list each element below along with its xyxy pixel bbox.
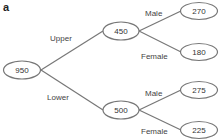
edge-root-lower [41,70,103,110]
node-lower-male: 275 [181,82,218,99]
node-lower: 500 [103,101,139,119]
node-lower-male-value: 275 [192,86,206,95]
node-upper-female: 180 [181,44,218,61]
node-root: 950 [4,61,41,79]
edge-upper-female [139,31,181,52]
node-lower-female-value: 225 [192,126,206,135]
edge-label-upper-female: Female [141,52,168,61]
edge-label-lower-female: Female [141,127,168,136]
node-root-value: 950 [15,66,29,75]
node-lower-female: 225 [181,122,218,139]
node-upper: 450 [103,22,139,40]
node-upper-male-value: 270 [192,7,206,16]
edge-label-lower: Lower [47,93,69,102]
node-upper-value: 450 [114,27,128,36]
panel-label: a [3,1,10,13]
tree-diagram: a Upper Lower Male Female Male Female 95… [0,0,222,140]
node-lower-value: 500 [114,106,128,115]
edge-label-lower-male: Male [145,89,163,98]
node-upper-female-value: 180 [192,48,206,57]
edge-label-upper: Upper [50,34,72,43]
node-upper-male: 270 [181,3,218,20]
edge-label-upper-male: Male [145,9,163,18]
